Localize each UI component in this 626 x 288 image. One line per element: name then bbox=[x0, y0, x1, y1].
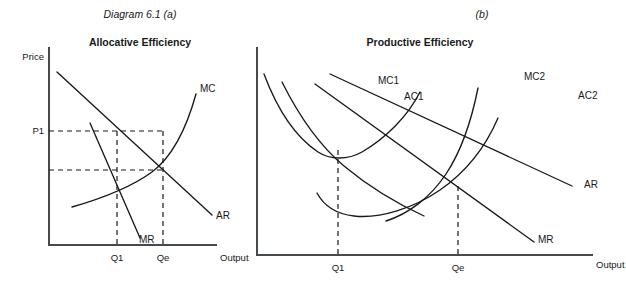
panel-b-mc2-curve bbox=[386, 88, 478, 221]
panel-a-title: Allocative Efficiency bbox=[89, 36, 191, 48]
panel-b-title: Productive Efficiency bbox=[367, 36, 474, 48]
panel-a-mr-label: MR bbox=[139, 234, 155, 245]
panel-b-ac1-curve bbox=[264, 74, 420, 158]
panel-productive-efficiency: Productive Efficiency Output Q1 Qe bbox=[257, 36, 625, 273]
panel-b-qe-tick-label: Qe bbox=[452, 262, 465, 273]
economics-diagram-svg: Diagram 6.1 (a) (b) Allocative Efficienc… bbox=[0, 0, 626, 288]
panel-a-x-axis-label: Output bbox=[220, 252, 249, 263]
panel-a-qe-tick-label: Qe bbox=[157, 252, 170, 263]
panel-a-mc-curve bbox=[72, 94, 196, 207]
panel-b-mc2-label: MC2 bbox=[524, 71, 546, 82]
panel-b-mr-curve bbox=[315, 84, 534, 242]
panel-b-mc1-curve bbox=[282, 82, 424, 216]
panel-a-ar-label: AR bbox=[216, 210, 230, 221]
panel-b-ar-label: AR bbox=[584, 179, 598, 190]
panel-b-mc1-label: MC1 bbox=[378, 75, 400, 86]
figure-caption-a: Diagram 6.1 (a) bbox=[104, 8, 177, 20]
panel-b-mr-label: MR bbox=[538, 234, 554, 245]
panel-b-ar-curve bbox=[330, 74, 572, 186]
panel-b-q1-tick-label: Q1 bbox=[332, 262, 345, 273]
panel-a-mr-curve bbox=[90, 123, 140, 238]
panel-a-ar-curve bbox=[57, 72, 212, 215]
panel-a-q1-tick-label: Q1 bbox=[111, 252, 124, 263]
figure-caption-b: (b) bbox=[476, 8, 489, 20]
diagram-figure: Diagram 6.1 (a) (b) Allocative Efficienc… bbox=[0, 0, 626, 288]
panel-a-p1-label: P1 bbox=[32, 125, 44, 136]
panel-allocative-efficiency: Allocative Efficiency Price Output P1 Q1… bbox=[22, 36, 249, 263]
panel-a-mc-label: MC bbox=[200, 83, 216, 94]
panel-b-ac2-label: AC2 bbox=[578, 90, 598, 101]
panel-b-x-axis-label: Output bbox=[596, 259, 625, 270]
panel-b-ac1-label: AC1 bbox=[404, 91, 424, 102]
panel-b-ac2-curve bbox=[317, 118, 498, 216]
panel-a-y-axis-label: Price bbox=[22, 51, 44, 62]
